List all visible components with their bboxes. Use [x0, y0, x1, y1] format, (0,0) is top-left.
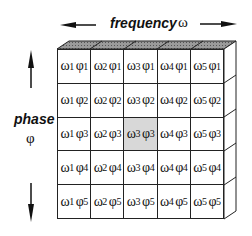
omega-symbol: ω: [160, 126, 169, 142]
omega-index: 2: [102, 196, 107, 207]
grid-right-face: [224, 41, 236, 219]
phi-index: 5: [116, 196, 121, 207]
frequency-axis-symbol: ω: [178, 14, 188, 31]
phi-symbol: φ: [76, 58, 84, 74]
grid-cell: ω4φ5: [158, 185, 191, 219]
grid-cell: ω2φ2: [91, 84, 124, 118]
omega-index: 5: [202, 95, 207, 106]
phi-index: 4: [183, 162, 188, 173]
phi-symbol: φ: [76, 92, 84, 108]
omega-symbol: ω: [160, 58, 169, 74]
grid-cell: ω5φ2: [191, 84, 224, 118]
grid-cell: ω1φ1: [58, 50, 91, 84]
phase-arrow-up-icon: [28, 50, 34, 88]
phi-symbol: φ: [109, 160, 117, 176]
grid-cell: ω2φ3: [91, 118, 124, 152]
omega-index: 4: [169, 196, 174, 207]
omega-symbol: ω: [127, 160, 136, 176]
grid-cell: ω5φ1: [191, 50, 224, 84]
phi-symbol: φ: [109, 126, 117, 142]
phi-symbol: φ: [175, 126, 183, 142]
phi-symbol: φ: [142, 160, 150, 176]
grid-cell: ω3φ3: [124, 118, 157, 152]
phi-index: 2: [216, 95, 221, 106]
omega-index: 2: [102, 162, 107, 173]
phi-index: 3: [183, 128, 188, 139]
grid-cell: ω5φ4: [191, 151, 224, 185]
omega-symbol: ω: [160, 92, 169, 108]
omega-index: 5: [202, 61, 207, 72]
omega-index: 4: [169, 128, 174, 139]
omega-symbol: ω: [193, 58, 202, 74]
phi-symbol: φ: [175, 194, 183, 210]
frequency-arrow-left-icon: [60, 22, 96, 28]
omega-symbol: ω: [160, 194, 169, 210]
grid-cell: ω4φ3: [158, 118, 191, 152]
phi-symbol: φ: [109, 92, 117, 108]
frequency-arrow-right-icon: [200, 21, 237, 27]
omega-symbol: ω: [127, 126, 136, 142]
omega-index: 5: [202, 196, 207, 207]
omega-symbol: ω: [193, 160, 202, 176]
phi-index: 1: [150, 61, 155, 72]
phi-index: 4: [83, 162, 88, 173]
omega-symbol: ω: [60, 92, 69, 108]
phi-index: 1: [216, 61, 221, 72]
omega-symbol: ω: [193, 194, 202, 210]
grid-cell: ω4φ4: [158, 151, 191, 185]
omega-symbol: ω: [160, 160, 169, 176]
omega-symbol: ω: [127, 92, 136, 108]
phi-symbol: φ: [142, 126, 150, 142]
grid-cell: ω1φ4: [58, 151, 91, 185]
omega-symbol: ω: [94, 126, 103, 142]
phi-index: 2: [183, 95, 188, 106]
phi-symbol: φ: [175, 160, 183, 176]
phi-symbol: φ: [109, 194, 117, 210]
phi-symbol: φ: [208, 58, 216, 74]
grid-cell: ω3φ1: [124, 50, 157, 84]
omega-symbol: ω: [193, 92, 202, 108]
phi-symbol: φ: [76, 194, 84, 210]
phi-index: 1: [116, 61, 121, 72]
phi-index: 5: [216, 196, 221, 207]
phi-index: 2: [150, 95, 155, 106]
phi-symbol: φ: [109, 58, 117, 74]
omega-symbol: ω: [94, 194, 103, 210]
grid-cell: ω3φ4: [124, 151, 157, 185]
omega-symbol: ω: [60, 126, 69, 142]
phi-index: 1: [183, 61, 188, 72]
omega-symbol: ω: [94, 92, 103, 108]
omega-symbol: ω: [127, 58, 136, 74]
omega-index: 4: [169, 162, 174, 173]
frequency-phase-grid: ω1φ1ω2φ1ω3φ1ω4φ1ω5φ1ω1φ2ω2φ2ω3φ2ω4φ2ω5φ2…: [57, 49, 224, 219]
phase-arrow-down-icon: [28, 183, 34, 222]
phi-index: 2: [116, 95, 121, 106]
grid-cell: ω4φ2: [158, 84, 191, 118]
grid-top-face: [57, 41, 236, 49]
phi-index: 4: [116, 162, 121, 173]
phi-symbol: φ: [208, 194, 216, 210]
omega-index: 5: [202, 128, 207, 139]
omega-symbol: ω: [60, 160, 69, 176]
omega-index: 1: [69, 61, 74, 72]
phi-symbol: φ: [208, 126, 216, 142]
phase-axis-symbol: φ: [26, 130, 35, 147]
grid-cell: ω1φ3: [58, 118, 91, 152]
phi-index: 3: [150, 128, 155, 139]
omega-symbol: ω: [60, 58, 69, 74]
phi-symbol: φ: [175, 92, 183, 108]
grid-cell: ω2φ5: [91, 185, 124, 219]
grid-cell: ω3φ5: [124, 185, 157, 219]
phi-index: 3: [83, 128, 88, 139]
omega-index: 3: [136, 128, 141, 139]
omega-index: 3: [136, 61, 141, 72]
phi-symbol: φ: [175, 58, 183, 74]
phi-symbol: φ: [208, 160, 216, 176]
grid-cell: ω2φ4: [91, 151, 124, 185]
grid-cell: ω5φ5: [191, 185, 224, 219]
phi-symbol: φ: [142, 58, 150, 74]
phi-symbol: φ: [142, 92, 150, 108]
frequency-axis-label: frequency: [110, 15, 177, 31]
phi-index: 5: [183, 196, 188, 207]
omega-index: 2: [102, 95, 107, 106]
